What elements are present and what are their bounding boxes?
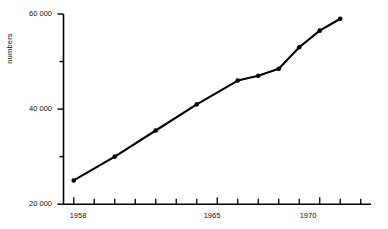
data-point-1969 bbox=[297, 45, 302, 50]
data-point-1964 bbox=[194, 102, 199, 107]
data-point-1967 bbox=[256, 74, 261, 79]
data-point-1971 bbox=[338, 16, 343, 21]
data-point-1960 bbox=[112, 154, 117, 159]
x-axis-ticks bbox=[74, 197, 361, 204]
line-chart: numbers 20 000 40 000 60 000 1958 1965 1… bbox=[0, 0, 388, 229]
y-axis-ticks bbox=[58, 14, 64, 204]
data-point-1962 bbox=[153, 128, 158, 133]
data-point-1966 bbox=[235, 78, 240, 83]
data-point-1970 bbox=[317, 28, 322, 33]
data-point-1968 bbox=[276, 66, 281, 71]
chart-canvas bbox=[0, 0, 388, 229]
data-point-1958 bbox=[71, 178, 76, 183]
